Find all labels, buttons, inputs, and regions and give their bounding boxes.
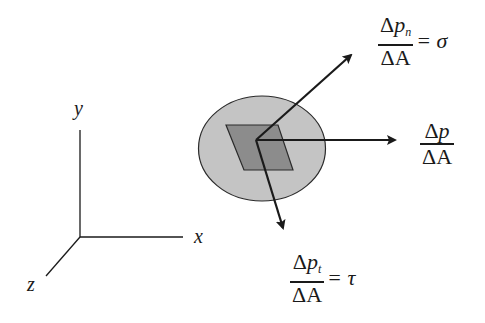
force-variable: p xyxy=(394,12,405,37)
normal-stress-fraction: Δpn ΔA xyxy=(378,13,413,70)
sigma-equals: = σ xyxy=(416,28,447,54)
tangential-subscript: t xyxy=(318,262,321,276)
area-term: ΔA xyxy=(381,45,411,70)
force-variable: p xyxy=(307,249,318,274)
coordinate-axes xyxy=(46,130,183,276)
resultant-numerator: Δp xyxy=(422,119,451,143)
shear-stress-fraction: Δpt ΔA xyxy=(290,250,324,307)
normal-stress-numerator: Δpn xyxy=(378,13,413,44)
area-term: ΔA xyxy=(292,282,322,307)
z-axis-label: z xyxy=(27,274,35,294)
normal-stress-denominator: ΔA xyxy=(379,46,413,70)
normal-subscript: n xyxy=(405,25,411,39)
tau-equals: = τ xyxy=(327,265,355,291)
delta-symbol: Δ xyxy=(293,249,307,274)
shear-stress-numerator: Δpt xyxy=(291,250,324,281)
z-axis xyxy=(46,237,80,276)
delta-symbol: Δ xyxy=(380,12,394,37)
resultant-denominator: ΔA xyxy=(420,145,454,169)
stress-diagram: y x z Δpn ΔA = σ Δp ΔA Δpt ΔA = τ xyxy=(0,0,485,323)
normal-stress-label: Δpn ΔA = σ xyxy=(378,13,447,70)
y-axis-label: y xyxy=(74,98,83,118)
resultant-fraction: Δp ΔA xyxy=(420,119,454,169)
delta-symbol: Δ xyxy=(424,118,438,143)
shear-stress-label: Δpt ΔA = τ xyxy=(290,250,355,307)
force-variable: p xyxy=(439,118,450,143)
x-axis-label: x xyxy=(194,226,203,246)
area-term: ΔA xyxy=(422,144,452,169)
resultant-stress-label: Δp ΔA xyxy=(420,119,454,169)
shear-stress-denominator: ΔA xyxy=(290,283,324,307)
